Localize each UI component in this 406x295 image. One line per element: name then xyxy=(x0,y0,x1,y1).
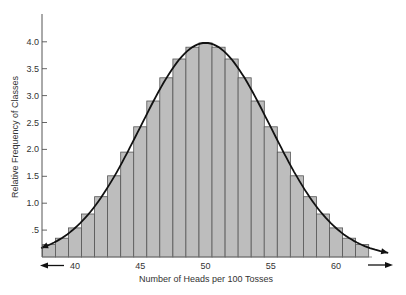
histogram-bar xyxy=(277,152,290,257)
y-tick-label: 2.0 xyxy=(26,144,39,154)
x-axis-left-arrow xyxy=(40,263,64,269)
y-axis-ticks: .51.01.52.02.53.03.54.0 xyxy=(26,37,47,235)
y-tick-label: 1.5 xyxy=(26,171,39,181)
x-tick-label: 50 xyxy=(200,261,210,271)
x-axis-ticks: 4045505560 xyxy=(70,261,341,271)
x-tick-label: 60 xyxy=(331,261,341,271)
histogram-bar xyxy=(264,127,277,257)
x-tick-label: 45 xyxy=(135,261,145,271)
x-axis-right-arrow xyxy=(368,262,393,268)
histogram-bar xyxy=(186,47,199,257)
histogram-bar xyxy=(225,59,238,257)
y-tick-label: 2.5 xyxy=(26,118,39,128)
histogram-bar xyxy=(121,152,134,257)
histogram-chart: .51.01.52.02.53.03.54.0 4045505560 Numbe… xyxy=(0,0,406,295)
histogram-bar xyxy=(95,197,108,257)
histogram-bar xyxy=(251,101,264,257)
histogram-bar xyxy=(212,47,225,257)
y-tick-label: 1.0 xyxy=(26,198,39,208)
histogram-bar xyxy=(173,59,186,257)
x-tick-label: 55 xyxy=(266,261,276,271)
y-tick-label: .5 xyxy=(31,225,39,235)
y-tick-label: 4.0 xyxy=(26,37,39,47)
x-axis-title: Number of Heads per 100 Tosses xyxy=(139,274,273,284)
histogram-bar xyxy=(238,78,251,257)
histogram-bar xyxy=(290,176,303,257)
histogram-bar xyxy=(199,43,212,257)
histogram-bar xyxy=(160,78,173,257)
y-tick-label: 3.0 xyxy=(26,91,39,101)
y-tick-label: 3.5 xyxy=(26,64,39,74)
histogram-bar xyxy=(147,101,160,257)
histogram-bar xyxy=(108,176,121,257)
histogram-bars xyxy=(42,43,368,257)
histogram-bar xyxy=(303,197,316,257)
x-tick-label: 40 xyxy=(70,261,80,271)
histogram-bar xyxy=(134,127,147,257)
y-axis-title: Relative Frequency of Classes xyxy=(10,75,20,198)
